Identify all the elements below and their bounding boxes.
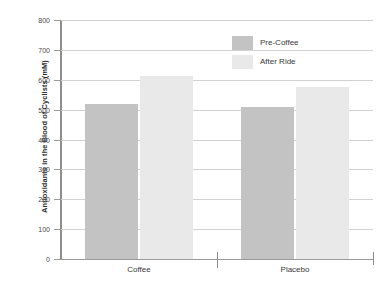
x-axis-label-placebo: Placebo <box>281 265 310 274</box>
legend-swatch-icon-after-ride <box>232 55 253 69</box>
legend-label-pre-coffee: Pre-Coffee <box>260 38 299 47</box>
y-axis-tick-label: 500 <box>22 106 50 113</box>
y-axis-tick-label: 400 <box>22 136 50 143</box>
x-axis-label-coffee: Coffee <box>127 265 150 274</box>
bar-placebo-pre-coffee <box>241 107 294 259</box>
y-axis-tick-label: 800 <box>22 17 50 24</box>
y-axis-tick-label: 600 <box>22 76 50 83</box>
y-axis-tick-label: 0 <box>22 256 50 263</box>
legend-label-after-ride: After Ride <box>260 57 296 66</box>
gridline <box>61 80 373 81</box>
bar-coffee-after-ride <box>140 76 193 259</box>
x-axis-end-tick <box>373 252 374 265</box>
legend-swatch-icon-pre-coffee <box>232 36 253 50</box>
y-axis-tick <box>54 259 61 260</box>
y-axis-tick-label: 700 <box>22 46 50 53</box>
y-axis-tick-label: 200 <box>22 196 50 203</box>
x-axis-group-divider <box>217 252 218 268</box>
legend-item-after-ride: After Ride <box>232 52 299 71</box>
gridline <box>61 20 373 21</box>
bar-coffee-pre-coffee <box>85 104 138 259</box>
y-axis-tick-label: 100 <box>22 226 50 233</box>
legend: Pre-Coffee After Ride <box>232 33 299 71</box>
legend-item-pre-coffee: Pre-Coffee <box>232 33 299 52</box>
gridline <box>61 50 373 51</box>
bar-placebo-after-ride <box>296 87 349 259</box>
plot-area <box>61 20 373 259</box>
y-axis-tick-label: 300 <box>22 166 50 173</box>
bar-chart: Antioxidants in the Blood of Cyclists (m… <box>0 0 392 288</box>
